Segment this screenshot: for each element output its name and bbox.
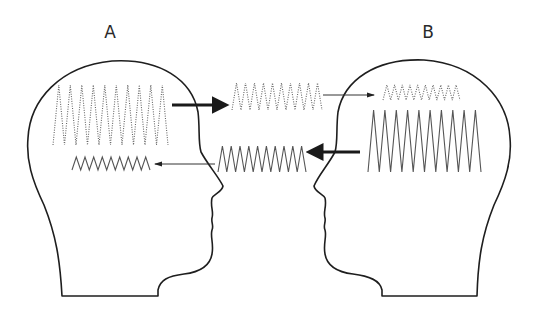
- waveform-a-large-dotted: [53, 85, 168, 145]
- waveform-b-large-solid: [368, 110, 481, 172]
- diagram-canvas: [0, 0, 535, 311]
- head-a-silhouette: [28, 61, 223, 296]
- waveform-group: [53, 83, 481, 172]
- waveform-mid-solid: [218, 146, 306, 172]
- waveform-b-small-dotted: [383, 85, 460, 100]
- waveform-mid-dotted: [232, 83, 322, 110]
- diagram-stage: A B: [0, 0, 535, 311]
- arrow-group: [155, 95, 374, 164]
- waveform-a-small-solid: [72, 157, 150, 170]
